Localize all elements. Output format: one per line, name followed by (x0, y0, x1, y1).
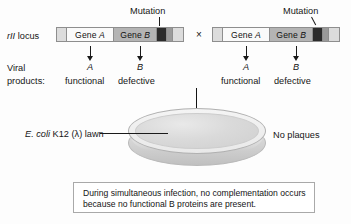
left-gene-a-label: Gene A (75, 30, 105, 40)
left-gene-a-segment: Gene A (67, 28, 114, 41)
right-genome-bar: Gene A Gene B (212, 27, 340, 42)
rii-locus-label: rII locus (7, 31, 39, 41)
viral-products-label-line2: products: (7, 76, 45, 86)
right-gene-b-label: Gene B (276, 30, 306, 40)
right-gene-a-product-arrow (243, 46, 250, 61)
lawn-label-italic: E. coli (25, 129, 50, 139)
lawn-leader-line (100, 133, 168, 134)
viral-products-label-line1: Viral (7, 63, 25, 73)
left-flank-left-segment (57, 28, 67, 41)
left-product-a-status: functional (65, 76, 104, 86)
right-product-b-symbol: B (293, 62, 299, 72)
left-gene-a-product-arrow (87, 46, 94, 61)
rii-locus-label-italic: rII (7, 31, 15, 41)
right-gene-a-label: Gene A (231, 30, 261, 40)
left-gene-b-label: Gene B (120, 30, 150, 40)
left-gene-b-product-arrow (137, 46, 144, 61)
lawn-label-rest: K12 (λ) lawn (50, 129, 104, 139)
right-mutation-segment (313, 28, 323, 41)
right-product-a-symbol: A (243, 62, 249, 72)
left-product-b-status: defective (118, 76, 155, 86)
lawn-label: E. coli K12 (λ) lawn (25, 129, 104, 139)
rii-locus-label-rest: locus (15, 31, 39, 41)
figure-canvas: Mutation Mutation rII locus Gene A Gene … (0, 0, 351, 224)
petri-dish (128, 108, 266, 168)
caption-box: During simultaneous infection, no comple… (73, 182, 315, 213)
mutation-label-left: Mutation (130, 6, 165, 16)
right-gene-b-product-arrow (293, 46, 300, 61)
left-flank-right-segment (173, 28, 183, 41)
left-gene-b-segment: Gene B (114, 28, 157, 41)
left-mutation-segment (157, 28, 167, 41)
mutation-label-right: Mutation (283, 6, 318, 16)
right-product-b-status: defective (274, 76, 311, 86)
left-genome-bar: Gene A Gene B (56, 27, 184, 42)
bacterial-lawn-surface (135, 113, 259, 149)
left-product-b-symbol: B (137, 62, 143, 72)
mutation-leader-right (311, 17, 316, 25)
right-gene-b-segment: Gene B (270, 28, 313, 41)
right-gene-a-segment: Gene A (223, 28, 270, 41)
right-product-a-status: functional (221, 76, 260, 86)
left-product-a-symbol: A (87, 62, 93, 72)
no-plaques-label: No plaques (273, 130, 319, 140)
right-flank-right-segment (329, 28, 339, 41)
right-flank-left-segment (213, 28, 223, 41)
caption-text: During simultaneous infection, no comple… (83, 188, 306, 211)
mutation-leader-left (159, 17, 160, 26)
cross-symbol: × (196, 30, 202, 40)
